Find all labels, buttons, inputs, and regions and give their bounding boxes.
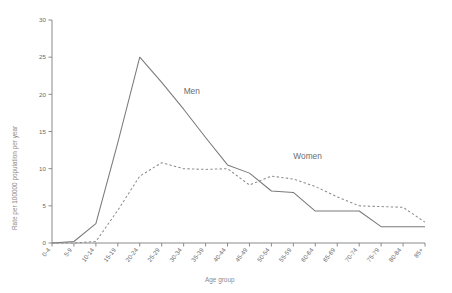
y-tick-label: 0 xyxy=(43,239,47,246)
x-tick-label: 30-34 xyxy=(168,246,184,263)
series-annotations: MenWomen xyxy=(184,86,323,161)
series-line-men xyxy=(52,57,425,243)
y-tick-label: 30 xyxy=(39,16,46,23)
x-tick-label: 5-9 xyxy=(62,246,73,258)
x-tick-label: 75-79 xyxy=(365,246,381,263)
y-tick-label: 15 xyxy=(39,128,46,135)
x-tick-label: 15-19 xyxy=(102,246,118,263)
x-tick-label: 55-59 xyxy=(277,246,293,263)
y-tick-label: 20 xyxy=(39,91,46,98)
y-tick-label: 10 xyxy=(39,165,46,172)
x-tick-label: 85+ xyxy=(412,246,424,259)
y-axis-title: Rate per 100000 population per year xyxy=(11,125,19,230)
x-tick-label: 50-54 xyxy=(255,246,271,263)
y-tick-label: 5 xyxy=(43,202,47,209)
chart-container: 051015202530 0-45-910-1415-1920-2425-293… xyxy=(0,0,452,293)
x-tick-label: 40-44 xyxy=(212,246,228,263)
x-tick-label: 45-49 xyxy=(233,246,249,263)
x-tick-label: 60-64 xyxy=(299,246,315,263)
x-axis-title: Age group xyxy=(205,276,235,284)
series-label-men: Men xyxy=(184,86,201,96)
x-tick-label: 10-14 xyxy=(80,246,96,263)
x-tick-label: 25-29 xyxy=(146,246,162,263)
x-tick-label: 70-74 xyxy=(343,246,359,263)
y-axis: 051015202530 xyxy=(39,16,52,246)
series-line-women xyxy=(52,163,425,243)
x-tick-label: 65-69 xyxy=(321,246,337,263)
x-tick-label: 35-39 xyxy=(190,246,206,263)
series-label-women: Women xyxy=(293,151,322,161)
line-chart: 051015202530 0-45-910-1415-1920-2425-293… xyxy=(0,0,452,293)
y-tick-label: 25 xyxy=(39,53,46,60)
x-tick-label: 0-4 xyxy=(40,246,51,258)
x-axis: 0-45-910-1415-1920-2425-2930-3435-3940-4… xyxy=(40,243,425,263)
x-tick-label: 80-84 xyxy=(387,246,403,263)
data-series-group xyxy=(52,57,425,243)
x-tick-label: 20-24 xyxy=(124,246,140,263)
